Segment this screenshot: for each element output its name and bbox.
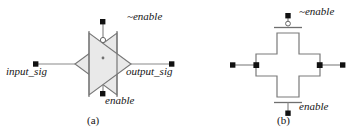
- label-b-enable-bar: ~enable: [299, 6, 334, 17]
- figure-vector-canvas: [0, 0, 360, 136]
- cross-region: [256, 33, 320, 97]
- inversion-bubble-icon: [100, 37, 105, 42]
- contact-b-right: [317, 62, 323, 68]
- terminal-b-enable-bar: [285, 13, 290, 18]
- contact-b-left: [253, 62, 259, 68]
- caption-b: (b): [277, 115, 290, 126]
- label-a-input-sig: input_sig: [6, 66, 47, 77]
- figure-transmission-gate: ~enable input_sig output_sig enable (a) …: [0, 0, 360, 136]
- label-a-enable-bar: ~enable: [127, 11, 162, 22]
- terminal-b-output: [340, 62, 345, 67]
- caption-a: (a): [87, 115, 99, 126]
- label-a-enable: enable: [105, 95, 134, 106]
- junction-dot-bottom: [102, 57, 105, 60]
- label-a-output-sig: output_sig: [126, 66, 172, 77]
- terminal-b-input: [230, 62, 235, 67]
- label-b-enable: enable: [299, 101, 328, 112]
- terminal-a-enable-bar: [100, 19, 105, 24]
- inversion-bubble-icon-b: [286, 21, 291, 26]
- subfigure-a-diagram: [33, 19, 174, 97]
